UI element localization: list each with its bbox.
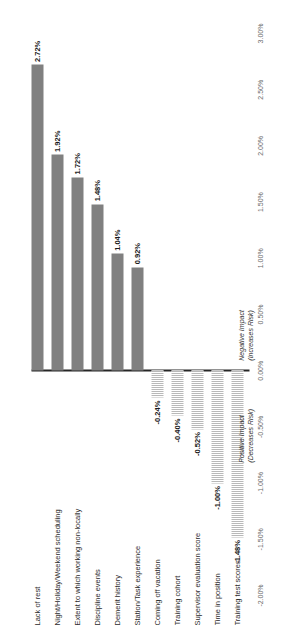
value-axis-tick-label: -0.50% [256,415,263,437]
category-label: Time in position [211,599,223,625]
category-label: Demerit history [111,599,123,625]
category-label: Extent to which working non-locally [71,599,83,625]
bar-positive [51,154,63,370]
value-axis-tick-label: 0.50% [256,304,263,324]
value-axis-tick-label: -1.00% [256,472,263,494]
category-label: Discipline events [91,599,103,625]
bar-negative [191,370,203,428]
bar-value-label: -0.40% [171,418,183,442]
bar-value-label: -0.24% [151,400,163,424]
impact-annotation-line-1: Positive Impact [236,376,245,462]
bar-value-label: 1.04% [111,229,123,250]
bar-value-label: -0.52% [191,432,203,456]
bar-positive [111,253,123,370]
bar-negative [151,370,163,397]
impact-annotation-line-1: Negative Impact [236,274,245,360]
bar-value-label: 1.48% [91,180,103,201]
bar-positive [31,64,43,370]
bar-positive [71,177,83,370]
bar-value-label: 0.92% [131,243,143,264]
chart-canvas: 2.72%Lack of rest1.92%Night/Holiday/Week… [0,0,283,625]
bar-negative [171,370,183,415]
value-axis-tick-label: 2.50% [256,79,263,99]
value-axis-tick-label: 0.00% [256,360,263,380]
bar-value-label: 1.92% [51,130,63,151]
bar-positive [91,204,103,370]
bar-chart-plot-area: 2.72%Lack of rest1.92%Night/Holiday/Week… [0,0,283,625]
category-label: Supervisor evaluation score [191,599,203,625]
bar-negative [211,370,223,482]
value-axis-tick-label: -2.00% [256,584,263,606]
bar-value-label: 2.72% [31,40,43,61]
value-axis-tick-label: 1.00% [256,248,263,268]
bar-positive [131,267,143,370]
bar-value-label: 1.72% [71,153,83,174]
category-label: Coming off vacation [151,599,163,625]
category-label: Lack of rest [31,599,43,625]
value-axis-tick-label: -1.50% [256,528,263,550]
category-label: Training test scores [231,599,243,625]
impact-annotation-line-2: (Increases Risk) [245,274,254,360]
category-label: Training cohort [171,599,183,625]
category-label: Station/Task experience [131,599,143,625]
value-axis-tick-label: 2.00% [256,135,263,155]
negative-impact-annotation: Negative Impact(Increases Risk) [236,274,254,360]
positive-impact-annotation: Positive Impact(Decreases Risk) [236,376,254,462]
category-label: Night/Holiday/Weekend scheduling [51,599,63,625]
bar-value-label: -1.00% [211,486,223,510]
impact-annotation-line-2: (Decreases Risk) [245,376,254,462]
value-axis-tick-label: 3.00% [256,23,263,43]
value-axis-tick-label: 1.50% [256,192,263,212]
